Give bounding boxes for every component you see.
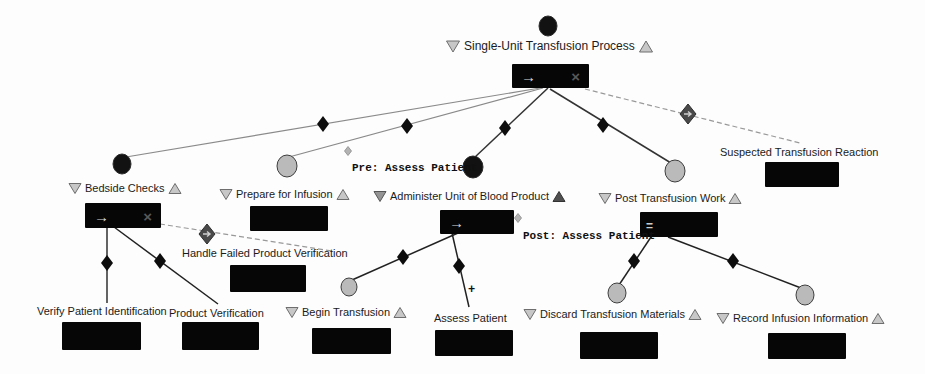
postrequisite-triangle-icon[interactable] <box>871 312 885 325</box>
step-name: Suspected Transfusion Reaction <box>720 146 878 159</box>
step-label-assess-patient[interactable]: Assess Patient <box>434 312 507 325</box>
step-label-verify-patient-id[interactable]: Verify Patient Identification <box>37 305 167 318</box>
step-name: Administer Unit of Blood Product <box>390 190 549 203</box>
edge-diamond-begin[interactable] <box>397 249 409 265</box>
exception-handler-diamond-icon[interactable] <box>680 104 696 124</box>
small-marker-diamond-icon <box>515 214 522 223</box>
prerequisite-triangle-icon[interactable] <box>523 308 537 321</box>
edge-diamond-verify[interactable] <box>101 255 113 271</box>
step-bar-verify-patient-id[interactable] <box>62 322 141 350</box>
small-marker-diamond-icon <box>345 147 352 156</box>
prerequisite-triangle-icon[interactable] <box>68 182 82 195</box>
step-bar-handle-failed-verification[interactable] <box>230 265 306 292</box>
step-name: Assess Patient <box>434 312 507 325</box>
edge-diamond-prepare[interactable] <box>401 118 413 134</box>
step-label-root[interactable]: Single-Unit Transfusion Process <box>445 39 654 54</box>
step-bar-begin-transfusion[interactable] <box>312 328 391 354</box>
step-name: Record Infusion Information <box>733 312 868 325</box>
step-name: Verify Patient Identification <box>37 305 167 318</box>
postrequisite-triangle-icon[interactable] <box>688 308 702 321</box>
edge-root-administer <box>474 88 548 158</box>
postrequisite-triangle-icon[interactable] <box>552 190 566 203</box>
step-label-discard-materials[interactable]: Discard Transfusion Materials <box>523 308 702 321</box>
edge-diamond-assess[interactable] <box>453 258 465 274</box>
postrequisite-triangle-icon[interactable] <box>638 39 654 54</box>
step-bar-record-infusion-info[interactable] <box>768 333 846 359</box>
step-label-product-verification[interactable]: Product Verification <box>169 307 264 320</box>
edge-root-bedside <box>126 88 540 157</box>
edge-root-postwork <box>550 89 671 163</box>
process-diagram-canvas: Single-Unit Transfusion Process Bedside … <box>0 0 925 374</box>
step-name: Discard Transfusion Materials <box>540 308 685 321</box>
interface-circle-prepare[interactable] <box>277 155 297 177</box>
step-bar-product-verification[interactable] <box>182 322 259 350</box>
prerequisite-triangle-icon[interactable] <box>219 188 233 201</box>
handler-x-icon[interactable]: × <box>571 69 580 84</box>
step-bar-root[interactable]: → × <box>512 64 589 88</box>
interface-circle-postwork[interactable] <box>665 160 685 182</box>
postrequisite-triangle-icon[interactable] <box>393 306 407 319</box>
pre-requisite-annotation[interactable]: Pre: Assess Patient <box>352 162 477 174</box>
step-label-post-transfusion-work[interactable]: Post Transfusion Work <box>598 192 742 205</box>
prerequisite-triangle-icon[interactable] <box>285 306 299 319</box>
cardinality-plus-marker: + <box>468 283 475 297</box>
prerequisite-triangle-icon[interactable] <box>445 39 461 54</box>
postrequisite-triangle-icon[interactable] <box>168 182 182 195</box>
step-label-prepare-for-infusion[interactable]: Prepare for Infusion <box>219 188 350 201</box>
step-name: Prepare for Infusion <box>236 188 333 201</box>
step-name: Product Verification <box>169 307 264 320</box>
edge-diamond-product[interactable] <box>154 253 166 269</box>
prerequisite-triangle-icon[interactable] <box>373 190 387 203</box>
post-requisite-annotation[interactable]: Post: Assess Patient <box>523 230 655 242</box>
edge-diamond-record[interactable] <box>727 253 739 269</box>
step-bar-bedside-checks[interactable]: → × <box>85 203 161 228</box>
sequential-badge-icon[interactable]: → <box>521 69 536 84</box>
prerequisite-triangle-icon[interactable] <box>716 312 730 325</box>
sequential-badge-icon[interactable]: → <box>94 208 109 223</box>
step-bar-prepare-for-infusion[interactable] <box>250 206 328 231</box>
prerequisite-triangle-icon[interactable] <box>598 192 612 205</box>
postrequisite-triangle-icon[interactable] <box>336 188 350 201</box>
postrequisite-triangle-icon[interactable] <box>728 192 742 205</box>
step-name: Bedside Checks <box>85 182 165 195</box>
step-label-record-infusion-info[interactable]: Record Infusion Information <box>716 312 885 325</box>
interface-circle-begin[interactable] <box>341 278 357 296</box>
interface-circle-discard[interactable] <box>608 283 626 303</box>
step-bar-discard-materials[interactable] <box>580 332 658 359</box>
step-label-begin-transfusion[interactable]: Begin Transfusion <box>285 306 407 319</box>
interface-circle-bedside[interactable] <box>113 154 131 174</box>
edge-diamond-bedside[interactable] <box>317 116 329 132</box>
step-bar-suspected-reaction[interactable] <box>765 162 839 187</box>
sequential-badge-icon[interactable]: → <box>449 215 464 230</box>
step-label-handle-failed-verification[interactable]: Handle Failed Product Verification <box>182 247 348 260</box>
step-label-administer-unit[interactable]: Administer Unit of Blood Product <box>373 190 566 203</box>
step-name: Single-Unit Transfusion Process <box>464 40 635 54</box>
step-label-bedside-checks[interactable]: Bedside Checks <box>68 182 182 195</box>
step-name: Begin Transfusion <box>302 306 390 319</box>
step-bar-assess-patient[interactable] <box>435 330 513 356</box>
step-name: Handle Failed Product Verification <box>182 247 348 260</box>
exception-handler-diamond-icon[interactable] <box>199 224 215 244</box>
step-bar-administer-unit[interactable]: → <box>440 210 514 234</box>
step-name: Post Transfusion Work <box>615 192 725 205</box>
step-label-suspected-reaction[interactable]: Suspected Transfusion Reaction <box>720 146 878 159</box>
interface-circle-root[interactable] <box>539 16 557 36</box>
handler-x-icon[interactable]: × <box>143 208 152 223</box>
interface-circle-record[interactable] <box>796 285 814 305</box>
